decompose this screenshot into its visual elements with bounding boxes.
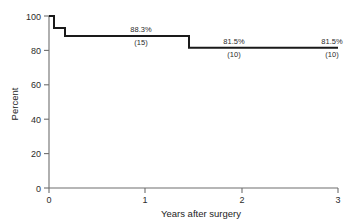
annotation-percent-2: 81.5%	[223, 37, 245, 46]
y-tick-label-20: 20	[31, 149, 41, 159]
x-tick-label-1: 1	[142, 195, 147, 205]
y-tick-label-40: 40	[31, 115, 41, 125]
y-axis-title: Percent	[9, 87, 20, 120]
annotation-percent-1: 88.3%	[130, 25, 152, 34]
chart-page: 100 80 60 40 20 0 0 1 2 3 Years after su…	[0, 0, 359, 221]
survival-chart: 100 80 60 40 20 0 0 1 2 3 Years after su…	[0, 0, 359, 221]
y-tick-label-100: 100	[26, 12, 41, 22]
annotation-count-3: (10)	[325, 50, 339, 59]
x-tick-label-0: 0	[46, 195, 51, 205]
annotation-count-1: (15)	[134, 38, 148, 47]
annotation-count-2: (10)	[227, 50, 241, 59]
x-tick-label-2: 2	[239, 195, 244, 205]
annotation-percent-3: 81.5%	[321, 37, 343, 46]
x-tick-label-3: 3	[335, 195, 340, 205]
x-axis-title: Years after surgery	[161, 208, 241, 219]
y-tick-label-60: 60	[31, 80, 41, 90]
y-tick-label-0: 0	[36, 184, 41, 194]
y-tick-label-80: 80	[31, 46, 41, 56]
